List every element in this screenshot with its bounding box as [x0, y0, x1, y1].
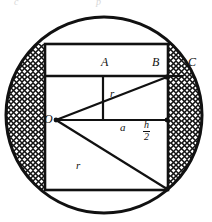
label-point-B: B	[152, 56, 159, 68]
label-apothem-a: a	[120, 122, 126, 133]
label-half-height-fraction: h 2	[143, 120, 150, 142]
label-radius-upper: r	[110, 88, 114, 99]
label-point-O: O	[44, 113, 53, 125]
fraction-numerator: h	[143, 120, 150, 130]
radius-O-bottomright	[56, 120, 167, 189]
fraction-denominator: 2	[143, 132, 150, 142]
point-a-end-dot	[165, 118, 170, 123]
label-point-C: C	[188, 56, 196, 68]
point-bottomright-dot	[165, 187, 170, 192]
geometry-figure: c p	[0, 0, 212, 222]
geometry-canvas	[0, 0, 212, 222]
label-point-A: A	[101, 56, 108, 68]
point-O-dot	[54, 118, 59, 123]
label-radius-lower: r	[76, 160, 80, 171]
point-B-dot	[164, 74, 169, 79]
